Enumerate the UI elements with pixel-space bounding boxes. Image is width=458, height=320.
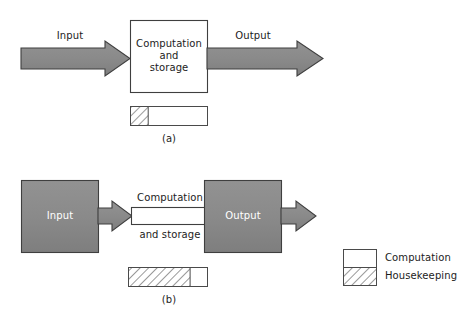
panel-b-output-arrow bbox=[281, 201, 316, 231]
panel-a-process-line-2: and bbox=[159, 50, 178, 62]
panel-a-tag: (a) bbox=[162, 133, 176, 145]
panel-a-input-label: Input bbox=[57, 30, 83, 42]
legend-label-computation: Computation bbox=[385, 252, 451, 264]
legend-swatch-housekeeping bbox=[344, 268, 377, 286]
panel-a-process-line-3: storage bbox=[150, 62, 189, 74]
panel-a-housekeeping-segment bbox=[131, 107, 149, 126]
panel-a-process-line-1: Computation bbox=[136, 38, 202, 50]
panel-a-output-arrow bbox=[207, 41, 323, 76]
panel-b-tag: (b) bbox=[162, 294, 176, 306]
panel-b-output-label: Output bbox=[225, 210, 260, 222]
panel-a-input-arrow bbox=[21, 41, 130, 76]
panel-b-time-bar bbox=[129, 268, 208, 287]
panel-b-process-channel bbox=[132, 208, 208, 225]
panel-b-process-bottom-label: and storage bbox=[139, 229, 200, 241]
legend-label-housekeeping: Housekeeping bbox=[385, 270, 457, 282]
panel-a-time-bar bbox=[131, 107, 208, 126]
panel-b-housekeeping-segment bbox=[129, 268, 191, 287]
panel-b-process-top-label: Computation bbox=[137, 192, 203, 204]
panel-b-input-label: Input bbox=[47, 210, 73, 222]
panel-b-input-arrow bbox=[98, 201, 132, 231]
panel-a-output-label: Output bbox=[235, 30, 270, 42]
legend-swatches bbox=[344, 250, 377, 286]
legend-swatch-computation bbox=[344, 250, 377, 268]
